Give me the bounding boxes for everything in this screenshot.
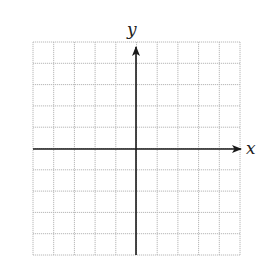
x-axis-label: x	[246, 138, 256, 158]
coordinate-plane: x y	[0, 0, 271, 272]
y-axis-label: y	[126, 19, 137, 39]
